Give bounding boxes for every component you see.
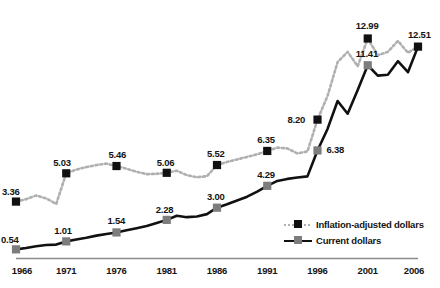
- data-point-marker[interactable]: [112, 162, 120, 170]
- x-axis-tick-label: 1981: [157, 266, 177, 276]
- x-axis-tick-label: 2001: [358, 266, 378, 276]
- data-point-label: 11.41: [356, 49, 378, 59]
- data-point-label: 5.03: [53, 158, 71, 168]
- x-axis-tick-label: 1976: [106, 266, 126, 276]
- data-point-marker[interactable]: [364, 61, 372, 69]
- data-point-label: 8.20: [288, 115, 306, 125]
- data-point-label: 0.54: [1, 235, 19, 245]
- x-axis-tick-label: 1986: [207, 266, 227, 276]
- x-axis-tick-label: 1971: [56, 266, 76, 276]
- legend-label-current-dollars: Current dollars: [316, 236, 381, 246]
- legend-label-inflation-adjusted: Inflation-adjusted dollars: [316, 220, 424, 230]
- x-axis-tick-label: 1966: [12, 266, 32, 276]
- data-point-label: 12.51: [408, 30, 431, 40]
- data-point-marker[interactable]: [62, 237, 70, 245]
- data-point-marker[interactable]: [112, 228, 120, 236]
- data-point-label: 5.46: [109, 150, 127, 160]
- data-point-label: 2.28: [156, 205, 174, 215]
- data-point-label: 5.52: [207, 149, 225, 159]
- data-point-marker[interactable]: [313, 116, 321, 124]
- data-point-marker[interactable]: [313, 146, 321, 154]
- x-axis-tick-label: 1996: [307, 266, 327, 276]
- data-point-label: 5.06: [157, 158, 175, 168]
- data-point-marker[interactable]: [163, 216, 171, 224]
- data-point-label: 6.35: [257, 135, 275, 145]
- line-chart: 3.365.035.465.065.526.358.2012.9912.510.…: [0, 0, 440, 288]
- data-point-marker[interactable]: [414, 43, 422, 51]
- data-point-label: 1.01: [54, 226, 72, 236]
- data-point-label: 3.36: [2, 187, 20, 197]
- x-axis-tick-label: 2006: [404, 266, 424, 276]
- data-point-marker[interactable]: [163, 169, 171, 177]
- data-point-marker[interactable]: [62, 169, 70, 177]
- legend-swatch-solid-icon: [284, 235, 312, 246]
- data-point-label: 3.00: [207, 192, 225, 202]
- data-point-marker[interactable]: [263, 182, 271, 190]
- legend-swatch-dotted-icon: [284, 219, 312, 230]
- data-point-marker[interactable]: [12, 197, 20, 205]
- data-point-marker[interactable]: [213, 204, 221, 212]
- data-point-marker[interactable]: [12, 245, 20, 253]
- data-point-marker[interactable]: [213, 161, 221, 169]
- chart-legend: Inflation-adjusted dollars Current dolla…: [284, 218, 424, 250]
- data-point-label: 6.38: [327, 145, 345, 155]
- series-line-inflation-adjusted: [16, 38, 418, 203]
- legend-item-current-dollars[interactable]: Current dollars: [284, 234, 424, 247]
- data-point-label: 1.54: [108, 216, 126, 226]
- legend-item-inflation-adjusted[interactable]: Inflation-adjusted dollars: [284, 218, 424, 231]
- x-axis-tick-label: 1991: [257, 266, 277, 276]
- data-point-marker[interactable]: [263, 147, 271, 155]
- data-point-label: 12.99: [356, 21, 379, 31]
- data-point-label: 4.29: [257, 170, 275, 180]
- data-point-marker[interactable]: [364, 34, 372, 42]
